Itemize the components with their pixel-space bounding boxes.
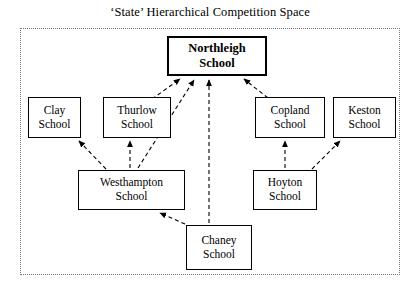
node-clay-line2: School: [39, 118, 71, 132]
node-northleigh-line1: Northleigh: [188, 41, 246, 56]
node-westhampton[interactable]: WesthamptonSchool: [78, 170, 185, 210]
node-westhampton-line1: Westhampton: [100, 176, 163, 190]
node-northleigh[interactable]: NorthleighSchool: [167, 36, 267, 76]
node-clay[interactable]: ClaySchool: [28, 97, 81, 138]
edge-copland-to-northleigh: [244, 79, 268, 98]
node-clay-line1: Clay: [39, 104, 71, 118]
node-keston-line1: Keston: [348, 104, 381, 118]
node-thurlow-line2: School: [117, 118, 157, 132]
node-hoyton-line2: School: [268, 190, 303, 204]
node-hoyton-line1: Hoyton: [268, 176, 303, 190]
node-chaney[interactable]: ChaneySchool: [186, 225, 252, 270]
node-thurlow[interactable]: ThurlowSchool: [103, 97, 171, 138]
edge-thurlow-to-northleigh: [152, 79, 180, 99]
node-copland-line1: Copland: [271, 104, 310, 118]
node-copland-line2: School: [271, 118, 310, 132]
node-chaney-line1: Chaney: [201, 234, 236, 248]
node-westhampton-line2: School: [100, 190, 163, 204]
diagram-canvas: ‘State’ Hierarchical Competition Space N…: [0, 0, 420, 291]
node-keston-line2: School: [348, 118, 381, 132]
node-chaney-line2: School: [201, 248, 236, 262]
edge-chaney-to-westhampton: [160, 213, 185, 224]
node-copland[interactable]: CoplandSchool: [255, 97, 325, 138]
node-northleigh-line2: School: [188, 56, 246, 71]
node-hoyton[interactable]: HoytonSchool: [253, 170, 317, 210]
node-keston[interactable]: KestonSchool: [333, 97, 396, 138]
edge-hoyton-to-keston: [312, 141, 340, 169]
edge-westhampton-to-clay: [79, 141, 106, 169]
node-thurlow-line1: Thurlow: [117, 104, 157, 118]
